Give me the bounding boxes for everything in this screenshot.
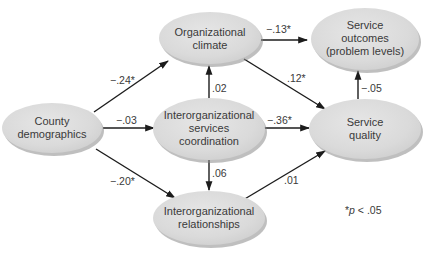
- node-interorganizational-relationships: Interorganizational relationships: [153, 191, 267, 248]
- node-organizational-climate: Organizational climate: [159, 12, 263, 67]
- node-interorganizational-services-coordination: Interorganizational services coordinatio…: [153, 98, 267, 163]
- footnote-rest: < .05: [355, 204, 382, 216]
- node-label-line: Organizational: [175, 26, 246, 38]
- label-county-climate: −.24*: [110, 74, 135, 86]
- label-coordination-climate: .02: [212, 82, 227, 94]
- node-label-line: coordination: [179, 135, 239, 147]
- label-quality-outcomes: −.05: [361, 82, 382, 94]
- edge-county-relationships: [96, 149, 175, 198]
- node-label-line: Service: [347, 116, 384, 128]
- path-diagram: −.24* −.03 −.20* −.13* .12* .02 −.36* .0…: [0, 0, 426, 260]
- node-label-line: (problem levels): [326, 45, 404, 57]
- label-county-relationships: −.20*: [110, 175, 135, 187]
- node-service-quality: Service quality: [309, 99, 423, 162]
- node-label-line: outcomes: [341, 32, 389, 44]
- node-label-line: Service: [347, 19, 384, 31]
- label-relationships-quality: .01: [284, 174, 299, 186]
- label-county-coordination: −.03: [116, 114, 137, 126]
- label-coordination-quality: −.36*: [267, 114, 292, 126]
- node-label-line: County: [35, 115, 70, 127]
- node-county-demographics: County demographics: [2, 103, 104, 156]
- node-label-line: Interorganizational: [164, 205, 255, 217]
- label-climate-outcomes: −.13*: [266, 23, 291, 35]
- label-coordination-relationships: .06: [212, 167, 227, 179]
- edge-county-climate: [94, 61, 168, 112]
- node-label-line: climate: [193, 39, 228, 51]
- label-climate-quality: .12*: [287, 72, 306, 84]
- node-label-line: Interorganizational: [164, 109, 255, 121]
- edge-climate-quality: [244, 59, 325, 109]
- node-label-line: relationships: [178, 218, 240, 230]
- significance-footnote: *p < .05: [345, 204, 382, 216]
- node-label-line: demographics: [17, 128, 87, 140]
- node-label-line: services: [189, 122, 230, 134]
- node-label-line: quality: [349, 129, 381, 141]
- node-service-outcomes: Service outcomes (problem levels): [311, 8, 421, 73]
